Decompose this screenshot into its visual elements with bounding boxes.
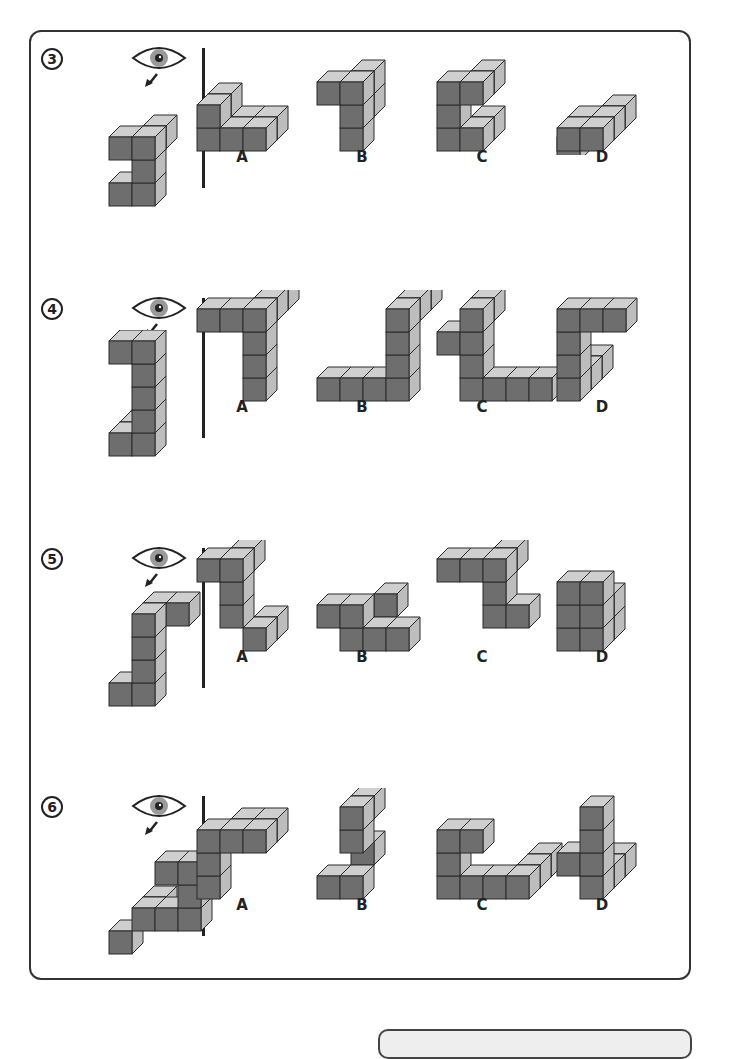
cube-front-face (197, 853, 220, 876)
option-label-b[interactable]: B (347, 148, 377, 166)
question-number: 5 (41, 548, 63, 570)
option-label-b[interactable]: B (347, 648, 377, 666)
cube-front-face (460, 332, 483, 355)
cube-front-face (460, 355, 483, 378)
cube-front-face (132, 637, 155, 660)
cube-front-face (437, 559, 460, 582)
answer-box (378, 1029, 692, 1059)
cube-front-face (437, 128, 460, 151)
question-3: 3 ABCD (29, 30, 691, 270)
cube-front-face (437, 82, 460, 105)
cube-front-face (557, 605, 580, 628)
question-6: 6 ABCD (29, 778, 691, 1018)
option-figure-d (555, 40, 695, 155)
cube-front-face (109, 137, 132, 160)
cube-front-face (529, 378, 552, 401)
cube-front-face (437, 853, 460, 876)
option-label-c[interactable]: C (467, 648, 497, 666)
cube-front-face (557, 853, 580, 876)
cube-front-face (197, 876, 220, 899)
cube-front-face (109, 433, 132, 456)
cube-front-face (243, 309, 266, 332)
cube-front-face (220, 582, 243, 605)
cube-front-face (109, 183, 132, 206)
cube-front-face (580, 605, 603, 628)
question-4: 4 ABCD (29, 280, 691, 520)
option-figure-b (315, 540, 455, 655)
cube-front-face (197, 559, 220, 582)
option-label-d[interactable]: D (587, 896, 617, 914)
cube-front-face (460, 559, 483, 582)
cube-front-face (580, 807, 603, 830)
cube-front-face (132, 660, 155, 683)
option-label-a[interactable]: A (227, 648, 257, 666)
option-label-d[interactable]: D (587, 148, 617, 166)
cube-front-face (340, 807, 363, 830)
cube-front-face (557, 332, 580, 355)
question-number: 3 (41, 48, 63, 70)
option-label-c[interactable]: C (467, 398, 497, 416)
cube-front-face (557, 355, 580, 378)
option-figure-c (435, 290, 575, 405)
option-label-d[interactable]: D (587, 648, 617, 666)
option-label-c[interactable]: C (467, 148, 497, 166)
option-figure-c (435, 40, 575, 155)
cube-front-face (132, 410, 155, 433)
cube-front-face (506, 378, 529, 401)
cube-front-face (317, 378, 340, 401)
cube-front-face (132, 683, 155, 706)
option-label-a[interactable]: A (227, 398, 257, 416)
cube-front-face (580, 853, 603, 876)
option-label-a[interactable]: A (227, 148, 257, 166)
cube-front-face (580, 309, 603, 332)
cube-front-face (243, 830, 266, 853)
cube-front-face (132, 137, 155, 160)
cube-front-face (557, 309, 580, 332)
option-label-d[interactable]: D (587, 398, 617, 416)
cube-front-face (437, 105, 460, 128)
cube-front-face (557, 128, 580, 151)
cube-front-face (109, 341, 132, 364)
option-figure-a (195, 788, 335, 903)
cube-front-face (132, 433, 155, 456)
cube-front-face (603, 309, 626, 332)
cube-front-face (317, 82, 340, 105)
cube-front-face (109, 683, 132, 706)
cube-front-face (340, 830, 363, 853)
cube-front-face (506, 876, 529, 899)
option-figure-b (315, 788, 455, 903)
cube-front-face (557, 582, 580, 605)
option-figure-b (315, 40, 455, 155)
cube-front-face (557, 378, 580, 401)
cube-front-face (386, 355, 409, 378)
cube-front-face (197, 309, 220, 332)
cube-front-face (109, 931, 132, 954)
option-figure-c (435, 540, 575, 655)
cube-front-face (437, 876, 460, 899)
cube-front-face (243, 332, 266, 355)
cube-front-face (132, 341, 155, 364)
option-label-c[interactable]: C (467, 896, 497, 914)
cube-front-face (483, 559, 506, 582)
cube-front-face (386, 378, 409, 401)
cube-front-face (437, 830, 460, 853)
cube-front-face (437, 332, 460, 355)
option-label-a[interactable]: A (227, 896, 257, 914)
cube-front-face (243, 355, 266, 378)
cube-front-face (197, 105, 220, 128)
cube-front-face (386, 332, 409, 355)
cube-front-face (220, 830, 243, 853)
option-figure-a (195, 290, 335, 405)
cube-front-face (340, 82, 363, 105)
option-figure-a (195, 540, 335, 655)
cube-front-face (580, 830, 603, 853)
cube-front-face (460, 82, 483, 105)
option-figure-b (315, 290, 455, 405)
cube-front-face (220, 559, 243, 582)
cube-front-face (132, 908, 155, 931)
cube-front-face (220, 309, 243, 332)
option-label-b[interactable]: B (347, 896, 377, 914)
option-label-b[interactable]: B (347, 398, 377, 416)
cube-front-face (155, 862, 178, 885)
cube-front-face (317, 605, 340, 628)
